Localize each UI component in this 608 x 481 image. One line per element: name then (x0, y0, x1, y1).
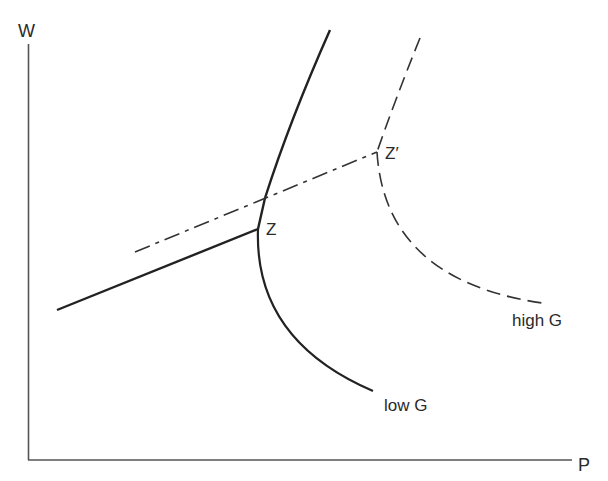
x-axis-label: P (578, 456, 590, 474)
low-g-lower-curve (258, 229, 373, 391)
point-z-prime-label: Z′ (385, 145, 399, 162)
low-g-label: low G (384, 397, 427, 414)
high-g-lower-curve (377, 152, 542, 303)
point-z-label: Z (266, 221, 276, 238)
shift-line (135, 152, 377, 252)
high-g-upper-curve (377, 38, 420, 152)
low-g-lower-line (57, 229, 258, 310)
diagram-canvas (0, 0, 608, 481)
high-g-label: high G (512, 312, 562, 329)
low-g-upper-curve (258, 30, 330, 229)
y-axis-label: W (18, 22, 35, 40)
